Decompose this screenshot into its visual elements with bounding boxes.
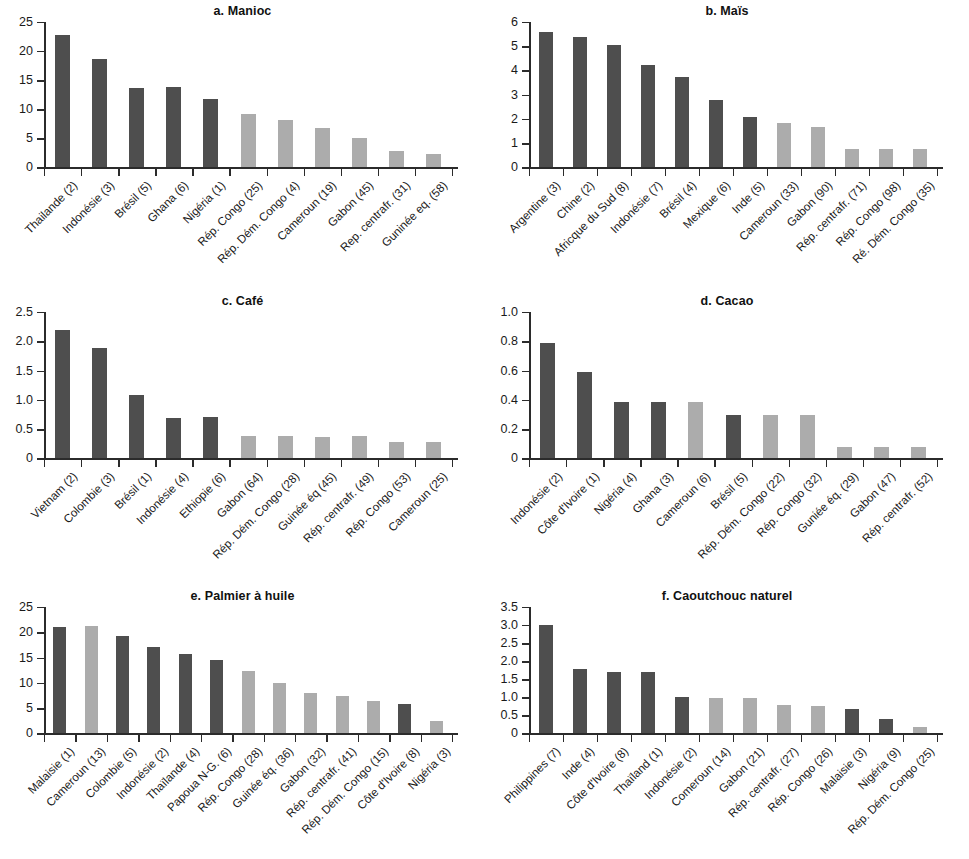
x-tick-c-4 <box>192 460 193 467</box>
y-tick-e-3 <box>37 658 44 659</box>
x-tick-a-7 <box>304 169 305 176</box>
y-tick-d-2 <box>522 400 529 401</box>
bar <box>273 683 286 733</box>
x-tick-e-end <box>452 735 453 742</box>
y-tick-e-0 <box>37 733 44 734</box>
x-tick-c-6 <box>267 460 268 467</box>
x-tick-f-10 <box>869 735 870 742</box>
bar <box>913 149 927 168</box>
plot-area-e: 0510152025Malaisie (1)Cameroun (13)Colom… <box>44 607 452 735</box>
bar <box>709 698 723 733</box>
x-tick-b-2 <box>597 169 598 176</box>
bar <box>129 88 144 168</box>
bar <box>336 696 349 733</box>
y-tick-label-b-6: 6 <box>511 15 518 29</box>
y-tick-label-a-4: 20 <box>19 44 33 58</box>
y-tick-label-d-1: 0.2 <box>501 422 518 436</box>
x-tick-e-3 <box>138 735 139 742</box>
y-tick-f-2 <box>522 697 529 698</box>
x-tick-d-5 <box>714 460 715 467</box>
x-tick-c-end <box>452 460 453 467</box>
y-tick-e-1 <box>37 708 44 709</box>
y-tick-a-5 <box>37 22 44 23</box>
x-tick-c-2 <box>118 460 119 467</box>
x-tick-e-9 <box>326 735 327 742</box>
x-tick-e-6 <box>232 735 233 742</box>
bar <box>55 35 70 168</box>
x-tick-a-5 <box>229 169 230 176</box>
x-tick-f-7 <box>767 735 768 742</box>
bars-group-a <box>44 22 452 169</box>
y-tick-label-e-1: 5 <box>26 701 33 715</box>
bar <box>352 436 367 458</box>
bar <box>304 693 317 733</box>
x-tick-a-1 <box>81 169 82 176</box>
bar <box>116 636 129 734</box>
bar <box>726 415 741 458</box>
bar <box>811 706 825 734</box>
y-tick-label-a-1: 5 <box>26 131 33 145</box>
x-tick-a-8 <box>341 169 342 176</box>
bar <box>55 330 70 459</box>
bars-group-d <box>529 312 937 460</box>
x-tick-b-7 <box>767 169 768 176</box>
bar <box>242 671 255 734</box>
x-tick-d-6 <box>752 460 753 467</box>
x-tick-e-5 <box>201 735 202 742</box>
y-tick-f-0 <box>522 733 529 734</box>
y-tick-label-c-5: 2.5 <box>16 305 33 319</box>
y-tick-label-f-2: 1.0 <box>501 690 518 704</box>
bar <box>911 447 926 459</box>
bar <box>426 442 441 458</box>
bar <box>389 442 404 458</box>
x-tick-f-9 <box>835 735 836 742</box>
chart-panel-d: d. Cacao00.20.40.60.81.0Indonésie (2)Côt… <box>485 290 969 585</box>
x-tick-d-8 <box>826 460 827 467</box>
bar <box>607 45 621 167</box>
y-tick-a-4 <box>37 51 44 52</box>
y-tick-label-a-0: 0 <box>26 160 33 174</box>
bar <box>641 672 655 733</box>
x-tick-a-9 <box>378 169 379 176</box>
x-tick-e-10 <box>358 735 359 742</box>
y-tick-c-1 <box>37 429 44 430</box>
bar <box>688 402 703 458</box>
x-tick-a-end <box>452 169 453 176</box>
y-tick-f-7 <box>522 607 529 608</box>
y-tick-label-e-0: 0 <box>26 726 33 740</box>
bar <box>845 149 859 168</box>
y-tick-label-c-2: 1.0 <box>16 393 33 407</box>
y-tick-label-e-5: 25 <box>19 600 33 614</box>
bar <box>651 402 666 458</box>
x-tick-a-10 <box>415 169 416 176</box>
chart-panel-f: f. Caoutchouc naturel00.51.01.52.02.53.0… <box>485 585 969 859</box>
x-tick-d-1 <box>566 460 567 467</box>
y-tick-b-1 <box>522 143 529 144</box>
x-tick-d-end <box>937 460 938 467</box>
y-tick-label-b-5: 5 <box>511 39 518 53</box>
y-tick-label-e-3: 15 <box>19 651 33 665</box>
chart-panel-b: b. Maïs0123456Argentine (3)Chine (2)Afri… <box>485 0 969 290</box>
y-tick-label-c-1: 0.5 <box>16 422 33 436</box>
bar <box>179 654 192 734</box>
bar <box>389 151 404 168</box>
x-tick-e-12 <box>421 735 422 742</box>
bars-group-e <box>44 607 452 735</box>
x-tick-f-3 <box>631 735 632 742</box>
y-tick-d-3 <box>522 371 529 372</box>
y-tick-d-1 <box>522 429 529 430</box>
bar <box>577 372 592 458</box>
y-tick-c-2 <box>37 400 44 401</box>
y-tick-d-5 <box>522 312 529 313</box>
bar <box>913 727 927 733</box>
bar <box>614 402 629 458</box>
x-tick-c-1 <box>81 460 82 467</box>
bar <box>315 437 330 459</box>
y-tick-b-0 <box>522 167 529 168</box>
bar <box>540 343 555 459</box>
x-tick-f-end <box>937 735 938 742</box>
x-tick-f-5 <box>699 735 700 742</box>
y-tick-a-2 <box>37 109 44 110</box>
y-tick-label-c-3: 1.5 <box>16 364 33 378</box>
x-axis-label-text: Argentine (3) <box>507 179 563 235</box>
